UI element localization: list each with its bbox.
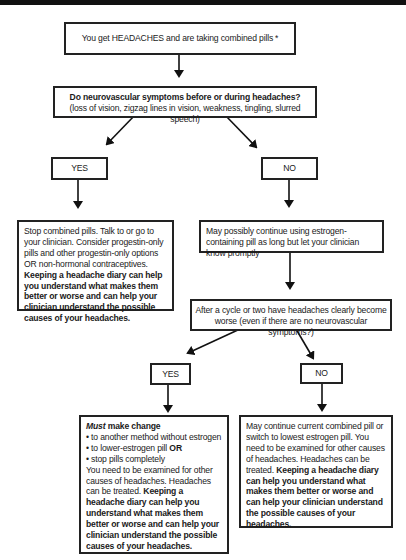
change-options-list: to another method without estrogen to lo…	[86, 432, 223, 465]
change-option-text: to lower-estrogen pill	[91, 443, 167, 453]
question-neurovascular-subtitle: (loss of vision, zigzag lines in vision,…	[55, 103, 315, 125]
q2-no-text: NO	[315, 368, 328, 379]
change-option: to another method without estrogen	[86, 432, 223, 443]
continue-estrogen-box: May possibly continue using estrogen-con…	[199, 220, 384, 253]
stop-combined-pills-box: Stop combined pills. Talk to or go to yo…	[17, 220, 174, 311]
q2-no-label: NO	[300, 363, 343, 384]
q2-yes-text: YES	[162, 369, 179, 380]
question-neurovascular-box: Do neurovascular symptoms before or duri…	[53, 86, 317, 118]
change-option-text: to another method without estrogen	[91, 432, 221, 442]
q1-yes-text: YES	[71, 163, 88, 174]
must-make-change-heading: Must make change	[86, 421, 223, 432]
q1-yes-label: YES	[51, 157, 108, 180]
question-worse-headaches-box: After a cycle or two have headaches clea…	[190, 299, 392, 331]
continue-current-pill-box: May continue current combined pill or sw…	[239, 415, 393, 528]
q2-yes-label: YES	[150, 363, 191, 385]
stop-pills-text: Stop combined pills. Talk to or go to yo…	[24, 226, 163, 269]
q1-no-text: NO	[283, 163, 296, 174]
question-neurovascular-title: Do neurovascular symptoms before or duri…	[55, 92, 315, 103]
start-text: You get HEADACHES and are taking combine…	[82, 33, 273, 44]
must-italic: Must	[86, 421, 105, 431]
footnote-asterisk: *	[275, 33, 278, 44]
change-option-text: stop pills completely	[91, 454, 165, 464]
must-make-change-box: Must make change to another method witho…	[79, 415, 229, 554]
or-text: OR	[169, 443, 182, 453]
change-option: stop pills completely	[86, 454, 223, 465]
q1-no-label: NO	[261, 157, 318, 180]
make-change-text: make change	[105, 421, 160, 431]
change-option: to lower-estrogen pill OR	[86, 443, 223, 454]
start-box: You get HEADACHES and are taking combine…	[64, 22, 296, 55]
